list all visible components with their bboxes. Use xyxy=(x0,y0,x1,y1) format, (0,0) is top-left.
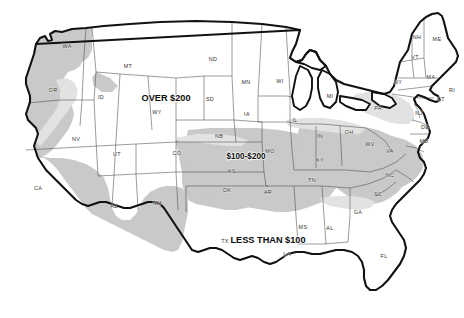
state-label-az: AZ xyxy=(110,203,118,209)
state-label-sc: SC xyxy=(374,191,382,197)
state-label-va: VA xyxy=(386,148,394,154)
state-label-vt: VT xyxy=(411,54,419,60)
legend-label-less-100: LESS THAN $100 xyxy=(230,235,305,245)
state-label-tn: TN xyxy=(308,177,316,183)
state-label-ny: NY xyxy=(394,79,402,85)
state-label-nc: NC xyxy=(386,172,395,178)
state-label-mt: MT xyxy=(124,63,133,69)
state-label-wy: WY xyxy=(152,109,161,115)
state-label-oh: OH xyxy=(345,129,354,135)
state-label-md: MD xyxy=(419,138,428,144)
state-label-ia: IA xyxy=(244,111,250,117)
state-label-nm: NM xyxy=(152,200,161,206)
state-label-de: DE xyxy=(421,124,429,130)
state-label-nh: NH xyxy=(413,34,422,40)
state-label-la: LA xyxy=(283,251,290,257)
legend-label-over-200: OVER $200 xyxy=(141,93,190,103)
state-label-me: ME xyxy=(433,36,442,42)
state-label-fl: FL xyxy=(381,253,388,259)
state-label-sd: SD xyxy=(206,96,214,102)
state-label-ok: OK xyxy=(223,187,232,193)
state-label-ms: MS xyxy=(299,224,308,230)
state-label-ct: CT xyxy=(437,96,445,102)
great-lakes xyxy=(290,50,396,110)
state-label-wa: WA xyxy=(62,43,71,49)
state-label-id: ID xyxy=(98,94,104,100)
state-label-nd: ND xyxy=(209,56,218,62)
state-label-nj: NJ xyxy=(415,110,422,116)
state-label-mo: MO xyxy=(265,148,274,154)
state-label-ar: AR xyxy=(264,189,272,195)
state-label-pa: PA xyxy=(374,105,382,111)
state-label-co: CO xyxy=(173,150,182,156)
state-label-ga: GA xyxy=(354,209,363,215)
state-label-ri: RI xyxy=(449,87,455,93)
us-choropleth-map: WAORIDMTNDSDNBMNWIIANVUTWYCOCAAZNMKSOKTX… xyxy=(0,0,464,318)
map-svg: WAORIDMTNDSDNBMNWIIANVUTWYCOCAAZNMKSOKTX… xyxy=(0,0,464,318)
legend-label-100-200: $100-$200 xyxy=(226,152,266,161)
state-label-ut: UT xyxy=(113,151,121,157)
state-label-ky: KY xyxy=(316,157,324,163)
state-label-nb: NB xyxy=(215,133,223,139)
state-label-or: OR xyxy=(49,87,58,93)
state-label-ma: MA xyxy=(427,74,436,80)
state-label-al: AL xyxy=(326,225,333,231)
state-label-mn: MN xyxy=(241,79,250,85)
state-label-in: IN xyxy=(317,133,323,139)
state-label-tx: TX xyxy=(221,238,229,244)
state-label-ks: KS xyxy=(228,168,236,174)
state-label-wi: WI xyxy=(276,78,283,84)
state-label-il: IL xyxy=(292,117,297,123)
state-label-wv: WV xyxy=(365,141,374,147)
state-label-ca: CA xyxy=(34,185,42,191)
state-label-mi: MI xyxy=(327,93,334,99)
state-label-nv: NV xyxy=(72,136,80,142)
